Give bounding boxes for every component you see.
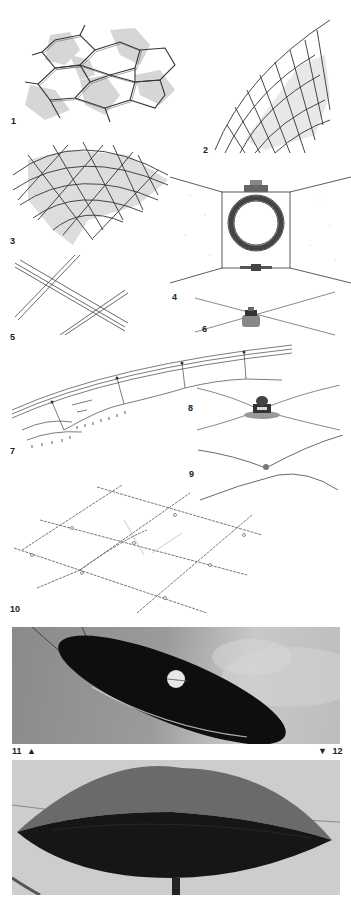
- crossing-cables-drawing: [10, 255, 130, 335]
- photo-12-lenticular-cushion: [12, 760, 340, 895]
- figure-label-3: 3: [10, 237, 15, 246]
- figure-label-7: 7: [10, 447, 15, 456]
- photo-12-number: 12: [332, 746, 342, 756]
- figure-8-saddle-node: [195, 385, 345, 435]
- grid-shell-drawing: [205, 15, 340, 155]
- figure-2-grid-shell: [205, 15, 340, 155]
- down-triangle-icon: ▼: [318, 746, 327, 756]
- figure-1-hexagon-lattice: [10, 10, 180, 125]
- figure-label-11: 11 ▲: [12, 747, 36, 756]
- photo-12-image: [12, 760, 340, 895]
- hexagon-lattice-drawing: [10, 10, 180, 125]
- figure-label-9: 9: [189, 470, 194, 479]
- figure-4-ring-clamp-section: [170, 165, 351, 285]
- figure-label-12: ▼ 12: [318, 747, 342, 756]
- saddle-node-drawing: [195, 385, 345, 435]
- ring-clamp-drawing: [170, 165, 351, 285]
- figure-label-2: 2: [203, 146, 208, 155]
- figure-label-8: 8: [188, 404, 193, 413]
- figure-label-10: 10: [10, 605, 20, 614]
- orthogonal-cable-net-drawing: [12, 485, 267, 615]
- figure-label-1: 1: [11, 117, 16, 126]
- figure-3-triangulated-dome: [8, 130, 173, 245]
- figure-label-6: 6: [202, 325, 207, 334]
- up-triangle-icon: ▲: [27, 746, 36, 756]
- figure-label-4: 4: [172, 293, 177, 302]
- node-clamp-drawing: [195, 290, 345, 340]
- photo-11-image: [12, 627, 340, 744]
- figure-10-orthogonal-cable-net: [12, 485, 267, 615]
- figure-5-crossing-cables: [10, 255, 130, 335]
- photo-11-tilted-membrane: [12, 627, 340, 744]
- figure-6-node-clamp: [195, 290, 345, 340]
- photo-11-number: 11: [12, 746, 22, 756]
- triangulated-dome-drawing: [8, 130, 173, 245]
